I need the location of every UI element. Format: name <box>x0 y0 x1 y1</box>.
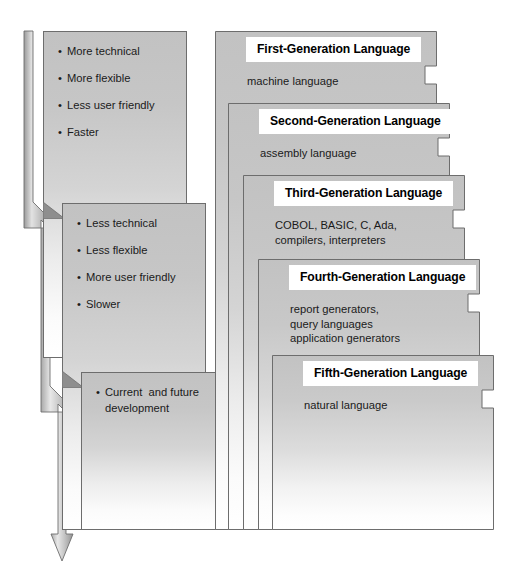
bullet-icon: • <box>58 72 67 85</box>
generation-title: Third-Generation Language <box>274 181 453 206</box>
list-item-label: More technical <box>67 45 140 57</box>
attribute-list: •Current and futuredevelopment <box>82 373 199 419</box>
generation-title: Fifth-Generation Language <box>303 361 478 386</box>
list-item-label: Less technical <box>86 217 157 229</box>
list-item: •More user friendly <box>77 271 176 284</box>
diagram-canvas: •More technical •More flexible •Less use… <box>0 0 519 581</box>
bullet-icon: • <box>96 386 105 399</box>
list-item-label: More user friendly <box>86 271 176 283</box>
generation-body: COBOL, BASIC, C, Ada, compilers, interpr… <box>275 218 397 247</box>
generation-body: report generators, query languages appli… <box>290 302 400 346</box>
attribute-list: •Less technical •Less flexible •More use… <box>63 204 176 325</box>
list-item-label: Less user friendly <box>67 99 155 111</box>
list-item: •Less user friendly <box>58 99 155 112</box>
list-item-label: Less flexible <box>86 244 148 256</box>
generation-body: machine language <box>247 74 338 89</box>
list-item: •Faster <box>58 126 155 139</box>
list-item: •Current and futuredevelopment <box>96 386 199 415</box>
attribute-list: •More technical •More flexible •Less use… <box>44 32 155 153</box>
list-item: •More flexible <box>58 72 155 85</box>
list-item: •Less technical <box>77 217 176 230</box>
bullet-icon: • <box>77 271 86 284</box>
list-item-label: More flexible <box>67 72 130 84</box>
generation-body: assembly language <box>260 146 356 161</box>
bullet-icon: • <box>58 45 67 58</box>
bullet-icon: • <box>77 244 86 257</box>
generation-body: natural language <box>304 398 387 413</box>
list-item-label-continued: development <box>96 402 199 415</box>
bullet-icon: • <box>77 217 86 230</box>
generation-title: First-Generation Language <box>246 37 421 62</box>
generation-panel-fifth: Fifth-Generation Language natural langua… <box>272 355 494 530</box>
list-item-label: Faster <box>67 126 99 138</box>
generation-title: Fourth-Generation Language <box>289 265 476 290</box>
attribute-panel-future: •Current and futuredevelopment <box>81 372 225 530</box>
bullet-icon: • <box>58 126 67 139</box>
list-item-label: Slower <box>86 298 120 310</box>
bullet-icon: • <box>58 99 67 112</box>
list-item-label: Current and future <box>105 386 199 398</box>
generation-title: Second-Generation Language <box>259 109 452 134</box>
list-item: •More technical <box>58 45 155 58</box>
bullet-icon: • <box>77 298 86 311</box>
list-item: •Slower <box>77 298 176 311</box>
list-item: •Less flexible <box>77 244 176 257</box>
